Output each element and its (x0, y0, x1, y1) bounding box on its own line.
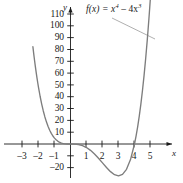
function-equation-label: f(x) = x4 – 4x3 (86, 5, 141, 15)
y-tick-label-minus20: –20 (38, 163, 64, 173)
y-tick-label-30: 30 (40, 104, 64, 114)
graph-figure: 110 100 90 80 70 60 50 40 30 20 10 –20 –… (0, 0, 183, 183)
equation-prefix: f(x) = x (86, 4, 115, 14)
y-axis-arrowhead (68, 7, 72, 13)
y-tick-label-90: 90 (40, 33, 64, 43)
y-tick-label-100: 100 (40, 21, 64, 31)
y-axis-name: y (63, 3, 67, 12)
y-tick-label-20: 20 (40, 116, 64, 126)
y-tick-label-110: 110 (40, 10, 64, 20)
x-tick-label-5: 5 (140, 152, 160, 162)
y-tick-label-10: 10 (40, 128, 64, 138)
y-tick-label-40: 40 (40, 92, 64, 102)
x-axis-arrowhead (167, 142, 173, 146)
y-tick-label-60: 60 (40, 69, 64, 79)
y-tick-label-80: 80 (40, 45, 64, 55)
equation-exponent-3: 3 (138, 2, 141, 9)
equation-minus-term: – 4x (119, 4, 139, 14)
y-tick-label-70: 70 (40, 57, 64, 67)
x-tick-label-minus1: –1 (44, 152, 64, 162)
y-tick-label-50: 50 (40, 81, 64, 91)
x-axis-name: x (172, 149, 176, 158)
